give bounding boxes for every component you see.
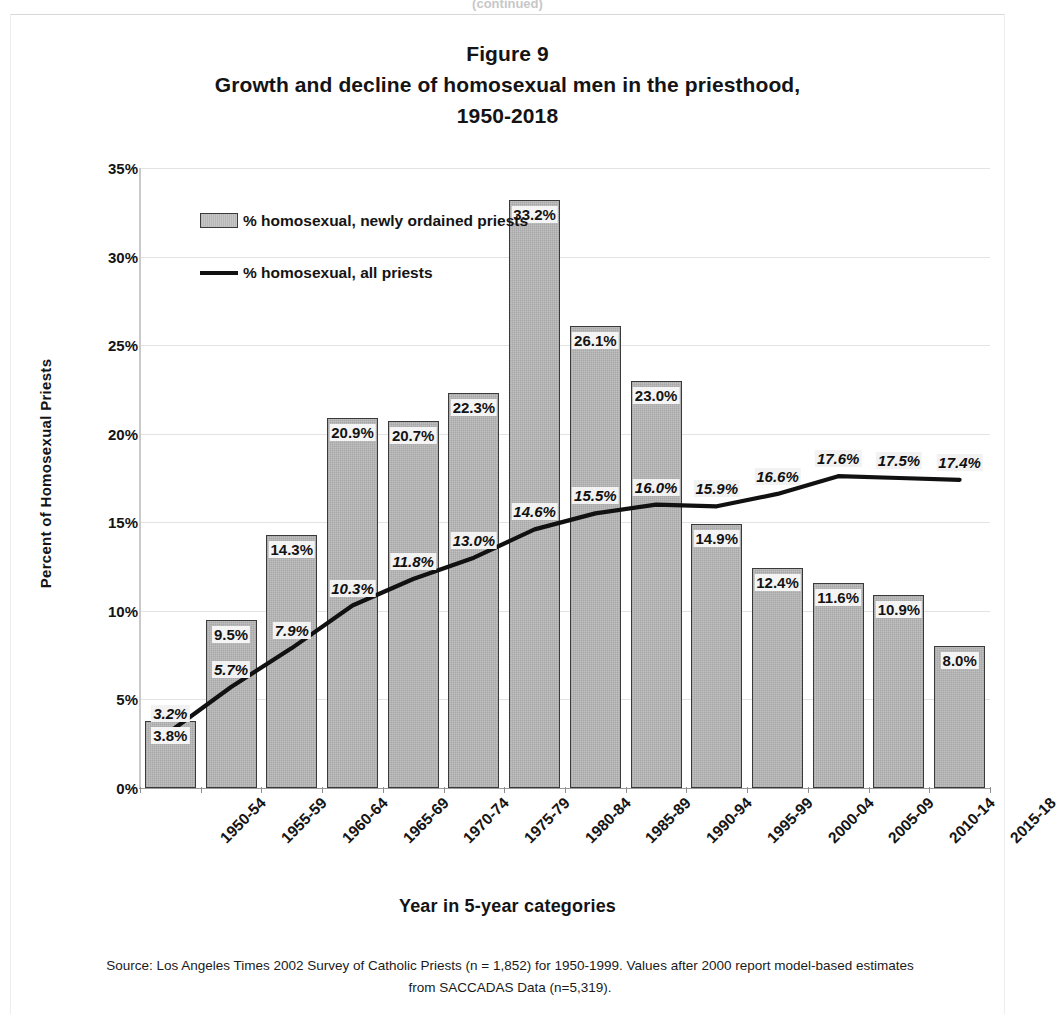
x-axis-category-label: 1975-79 bbox=[521, 794, 574, 847]
x-axis-tickmark bbox=[140, 787, 141, 793]
bar-value-label: 20.7% bbox=[390, 427, 437, 444]
source-note: Source: Los Angeles Times 2002 Survey of… bbox=[95, 955, 925, 999]
line-value-label: 17.5% bbox=[876, 452, 923, 469]
page-cutoff-text: (continued) bbox=[0, 0, 1015, 14]
line-value-label: 17.4% bbox=[936, 454, 983, 471]
x-axis-title: Year in 5-year categories bbox=[0, 896, 1015, 917]
x-axis-tickmark bbox=[686, 787, 687, 793]
x-axis-category-label: 1995-99 bbox=[763, 794, 816, 847]
x-axis-category-label: 2015-18 bbox=[1006, 794, 1059, 847]
x-axis-category-label: 1970-74 bbox=[460, 794, 513, 847]
y-axis-tick-label: 15% bbox=[68, 514, 138, 531]
legend-item-bar: % homosexual, newly ordained priests bbox=[200, 210, 530, 232]
line-value-label: 10.3% bbox=[329, 580, 376, 597]
title-main: Growth and decline of homosexual men in … bbox=[0, 69, 1015, 100]
line-value-label: 15.9% bbox=[694, 480, 741, 497]
x-axis-category-label: 2000-04 bbox=[824, 794, 877, 847]
bar-value-label: 26.1% bbox=[572, 332, 619, 349]
x-axis-category-label: 1980-84 bbox=[581, 794, 634, 847]
x-axis-tickmark bbox=[869, 787, 870, 793]
bar-value-label: 9.5% bbox=[212, 626, 250, 643]
bar-value-label: 22.3% bbox=[451, 399, 498, 416]
y-axis-title: Percent of Homosexual Priests bbox=[37, 344, 54, 604]
x-axis-category-label: 1960-64 bbox=[338, 794, 391, 847]
x-axis-category-label: 2010-14 bbox=[946, 794, 999, 847]
legend-bar-label: % homosexual, newly ordained priests bbox=[243, 210, 528, 232]
y-axis-tick-label: 5% bbox=[68, 691, 138, 708]
x-axis-category-label: 1990-94 bbox=[703, 794, 756, 847]
bar-value-label: 20.9% bbox=[329, 424, 376, 441]
bar-value-label: 23.0% bbox=[633, 387, 680, 404]
bar-value-label: 8.0% bbox=[941, 652, 979, 669]
chart-title: Figure 9 Growth and decline of homosexua… bbox=[0, 38, 1015, 131]
x-axis-tickmark bbox=[504, 787, 505, 793]
bar-value-label: 3.8% bbox=[151, 727, 189, 744]
line-value-label: 14.6% bbox=[511, 503, 558, 520]
x-axis-tickmark bbox=[322, 787, 323, 793]
x-axis-tickmark bbox=[444, 787, 445, 793]
y-axis-tick-label: 0% bbox=[68, 780, 138, 797]
x-axis-tickmark bbox=[808, 787, 809, 793]
chart-legend: % homosexual, newly ordained priests % h… bbox=[200, 210, 530, 290]
bar-value-label: 14.3% bbox=[269, 541, 316, 558]
right-frame-rule bbox=[1004, 14, 1005, 1014]
x-axis-category-label: 1955-59 bbox=[278, 794, 331, 847]
legend-item-line: % homosexual, all priests bbox=[200, 262, 530, 284]
plot-area: 0%5%10%15%20%25%30%35% 3.8%9.5%14.3%20.9… bbox=[140, 168, 990, 788]
x-axis-tickmark bbox=[626, 787, 627, 793]
legend-line-swatch-icon bbox=[200, 271, 238, 275]
source-line-1: Source: Los Angeles Times 2002 Survey of… bbox=[106, 958, 697, 973]
x-axis-category-label: 1950-54 bbox=[217, 794, 270, 847]
y-axis-tick-label: 10% bbox=[68, 602, 138, 619]
line-value-label: 5.7% bbox=[212, 661, 250, 678]
left-frame-rule bbox=[10, 14, 11, 1014]
x-axis-category-label: 1985-89 bbox=[642, 794, 695, 847]
x-axis-tickmark bbox=[565, 787, 566, 793]
x-axis-tickmark bbox=[990, 787, 991, 793]
bar-value-label: 12.4% bbox=[754, 574, 801, 591]
line-value-label: 7.9% bbox=[273, 622, 311, 639]
x-axis-tickmark bbox=[201, 787, 202, 793]
legend-bar-swatch-icon bbox=[200, 213, 238, 228]
y-axis-tick-label: 35% bbox=[68, 160, 138, 177]
y-axis-tick-label: 25% bbox=[68, 337, 138, 354]
legend-line-label: % homosexual, all priests bbox=[243, 262, 433, 284]
x-axis-category-label: 1965-69 bbox=[399, 794, 452, 847]
x-axis-tickmark bbox=[929, 787, 930, 793]
line-value-label: 15.5% bbox=[572, 487, 619, 504]
bar-value-label: 10.9% bbox=[876, 601, 923, 618]
line-value-label: 17.6% bbox=[815, 450, 862, 467]
line-value-label: 3.2% bbox=[151, 705, 189, 722]
x-axis-tickmark bbox=[383, 787, 384, 793]
top-divider bbox=[10, 14, 1005, 15]
line-value-label: 16.6% bbox=[754, 468, 801, 485]
x-axis-tickmark bbox=[747, 787, 748, 793]
title-figure-number: Figure 9 bbox=[0, 38, 1015, 69]
line-value-label: 11.8% bbox=[390, 553, 435, 570]
x-axis-tickmark bbox=[261, 787, 262, 793]
line-value-label: 13.0% bbox=[451, 532, 498, 549]
title-years: 1950-2018 bbox=[0, 100, 1015, 131]
x-axis-category-label: 2005-09 bbox=[885, 794, 938, 847]
y-axis-tick-label: 30% bbox=[68, 248, 138, 265]
line-value-label: 16.0% bbox=[633, 479, 680, 496]
bar-value-label: 11.6% bbox=[815, 589, 861, 606]
y-axis-tick-label: 20% bbox=[68, 425, 138, 442]
bar-value-label: 14.9% bbox=[694, 530, 741, 547]
